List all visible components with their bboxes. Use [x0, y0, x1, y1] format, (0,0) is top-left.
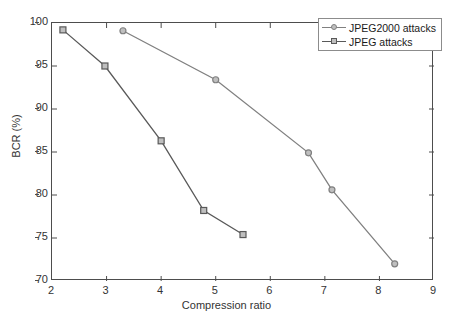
y-axis-label: BCR (%): [10, 96, 22, 176]
legend-label-jpeg2000: JPEG2000 attacks: [347, 22, 436, 34]
y-tick-mark: [35, 194, 39, 195]
data-point-marker: [240, 232, 246, 238]
x-tick-label: 6: [257, 284, 281, 296]
series-line-square: [63, 30, 243, 235]
legend-entry-jpeg2000: JPEG2000 attacks: [321, 21, 441, 35]
legend-marker-jpeg-icon: [321, 36, 347, 48]
y-tick-mark: [35, 280, 39, 281]
plot-area: [51, 22, 433, 280]
data-point-marker: [329, 187, 335, 193]
x-axis-tick-labels: 23456789: [0, 283, 453, 299]
circle-marker-icon: [331, 24, 337, 30]
x-tick-label: 7: [312, 284, 336, 296]
x-tick-label: 4: [148, 284, 172, 296]
x-tick-label: 8: [366, 284, 390, 296]
x-axis-label: Compression ratio: [0, 299, 453, 311]
y-tick-mark: [35, 65, 39, 66]
y-tick-mark: [35, 237, 39, 238]
square-marker-icon: [331, 38, 337, 44]
legend-label-jpeg: JPEG attacks: [347, 36, 413, 48]
data-point-marker: [213, 77, 219, 83]
data-point-marker: [120, 28, 126, 34]
x-tick-label: 3: [94, 284, 118, 296]
chart-figure: 707580859095100 23456789 Compression rat…: [0, 0, 453, 323]
data-point-marker: [102, 63, 108, 69]
chart-legend: JPEG2000 attacks JPEG attacks: [318, 18, 442, 51]
y-tick-mark: [35, 151, 39, 152]
data-point-marker: [158, 138, 164, 144]
data-point-marker: [201, 207, 207, 213]
data-point-marker: [305, 150, 311, 156]
series-line-circle: [123, 31, 395, 264]
x-tick-label: 9: [421, 284, 445, 296]
data-point-marker: [60, 27, 66, 33]
y-tick-mark: [35, 108, 39, 109]
y-tick-mark: [35, 22, 39, 23]
x-tick-label: 5: [203, 284, 227, 296]
legend-entry-jpeg: JPEG attacks: [321, 35, 441, 49]
plot-svg: [52, 23, 434, 281]
data-point-marker: [392, 261, 398, 267]
legend-marker-jpeg2000-icon: [321, 22, 347, 34]
x-tick-label: 2: [39, 284, 63, 296]
